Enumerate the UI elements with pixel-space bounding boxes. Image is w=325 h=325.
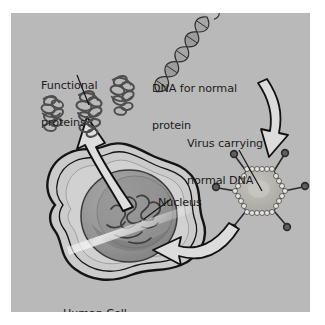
diagram-canvas: Functional proteins DNA for normal prote… [0, 0, 325, 325]
diagram-panel: Functional proteins DNA for normal prote… [11, 13, 310, 312]
label-functional-proteins: Functional proteins [41, 55, 98, 154]
label-nucleus: Nucleus [158, 172, 202, 234]
protein-cluster [110, 74, 136, 116]
label-human-cell: Human Cell [63, 283, 127, 312]
